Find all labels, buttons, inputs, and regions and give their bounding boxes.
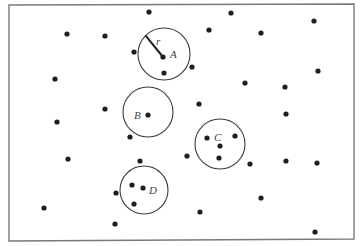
data-point bbox=[216, 155, 221, 160]
data-point bbox=[54, 119, 59, 124]
plot-frame bbox=[9, 4, 354, 241]
data-point bbox=[161, 70, 166, 75]
circle-label: A bbox=[169, 48, 177, 60]
data-point bbox=[258, 195, 263, 200]
data-point bbox=[232, 133, 237, 138]
data-point bbox=[242, 80, 247, 85]
neighborhood-circle-b: B bbox=[123, 87, 173, 137]
data-point bbox=[184, 153, 189, 158]
data-point bbox=[131, 49, 136, 54]
data-point bbox=[311, 18, 316, 23]
data-point bbox=[189, 64, 194, 69]
circle-label: D bbox=[148, 184, 157, 196]
data-point bbox=[282, 84, 287, 89]
data-point bbox=[129, 182, 134, 187]
data-point bbox=[258, 30, 263, 35]
data-point bbox=[64, 31, 69, 36]
data-point bbox=[315, 68, 320, 73]
data-point bbox=[146, 9, 151, 14]
data-point bbox=[113, 190, 118, 195]
data-point bbox=[314, 160, 319, 165]
data-point bbox=[206, 27, 211, 32]
data-point bbox=[137, 158, 142, 163]
circles-layer: rABCD bbox=[120, 28, 245, 214]
data-point bbox=[312, 229, 317, 234]
data-point bbox=[228, 10, 233, 15]
data-point bbox=[204, 135, 209, 140]
circle-outline bbox=[123, 87, 173, 137]
data-point bbox=[41, 205, 46, 210]
data-point bbox=[102, 106, 107, 111]
data-point bbox=[112, 221, 117, 226]
data-point bbox=[197, 209, 202, 214]
data-point bbox=[196, 101, 201, 106]
diagram-canvas: rABCD bbox=[0, 0, 363, 246]
data-point bbox=[52, 76, 57, 81]
circle-label: C bbox=[214, 131, 222, 143]
data-point bbox=[102, 33, 107, 38]
points-layer bbox=[41, 9, 320, 234]
data-point bbox=[140, 185, 145, 190]
circle-label: B bbox=[134, 109, 141, 121]
data-point bbox=[247, 161, 252, 166]
data-point bbox=[283, 158, 288, 163]
data-point bbox=[65, 156, 70, 161]
radius-label: r bbox=[156, 35, 161, 47]
data-point bbox=[283, 111, 288, 116]
data-point bbox=[131, 201, 136, 206]
data-point bbox=[217, 143, 222, 148]
data-point bbox=[127, 134, 132, 139]
radius-line bbox=[146, 36, 163, 57]
data-point bbox=[145, 112, 150, 117]
